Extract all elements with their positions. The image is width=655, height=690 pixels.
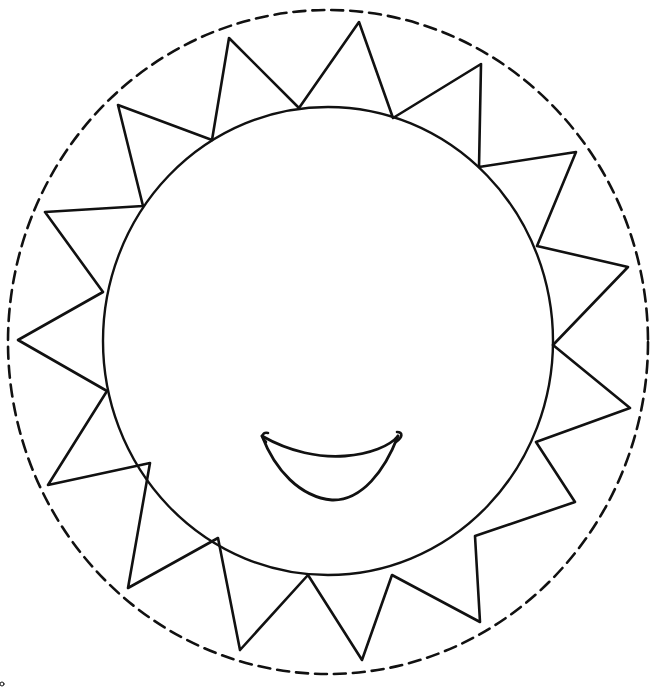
sun-drawing xyxy=(0,0,655,690)
background xyxy=(0,0,655,690)
